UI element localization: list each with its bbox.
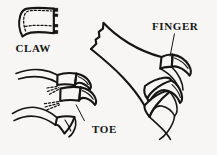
upper-toe-shaft-bottom (19, 77, 58, 83)
bottom-phalanx-claw (56, 116, 75, 133)
upper-toe-shaft-top (16, 70, 58, 75)
claw-sheath-tab-upper-mid (53, 14, 58, 16)
claw-sheath-tab-bottom (53, 30, 58, 33)
label-claw: CLAW (16, 42, 51, 54)
wing-lower-edge (91, 49, 145, 106)
wing-trailing-edge-lower (150, 117, 171, 140)
claw-sheath-outline (19, 8, 54, 37)
figure-root: CLAW (0, 0, 217, 155)
leader-toe (76, 105, 85, 122)
label-finger: FINGER (152, 20, 199, 32)
claw-sheath-detail (19, 8, 58, 37)
claw-sheath-tab-top (53, 8, 58, 11)
label-toe: TOE (92, 123, 117, 135)
claw-sheath-tab-lower-mid (53, 24, 58, 27)
lower-toe-shaft-bottom (14, 116, 56, 125)
foot-with-toe-and-claw (13, 70, 97, 137)
claw-sheath-inner-dashed-band (25, 25, 51, 26)
lower-toe-claw (79, 87, 96, 105)
claw-sheath-inner-dashed-top (24, 10, 52, 31)
lower-toe-terminal-phalanx (60, 87, 80, 101)
figure-svg: CLAW (0, 0, 217, 155)
finger1-phalanx (160, 55, 172, 69)
hidden-line-lower-b (45, 103, 59, 107)
wing-upper-edge-jagged (91, 23, 162, 57)
leader-finger (170, 34, 175, 57)
upper-toe-terminal-phalanx (57, 73, 76, 85)
